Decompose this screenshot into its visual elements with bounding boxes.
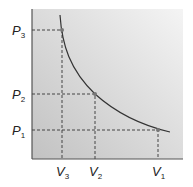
label-v3: V3 bbox=[56, 164, 70, 181]
point-p3-v3 bbox=[60, 28, 64, 32]
label-p1: P1 bbox=[12, 123, 26, 140]
label-p2: P2 bbox=[12, 87, 26, 104]
pv-diagram: P3 P2 P1 V3 V2 V1 bbox=[0, 0, 193, 187]
point-p1-v1 bbox=[156, 128, 160, 132]
label-v1: V1 bbox=[152, 164, 166, 181]
label-p3: P3 bbox=[12, 23, 26, 40]
label-v2: V2 bbox=[89, 164, 103, 181]
plot-area bbox=[32, 9, 183, 159]
point-p2-v2 bbox=[93, 92, 97, 96]
